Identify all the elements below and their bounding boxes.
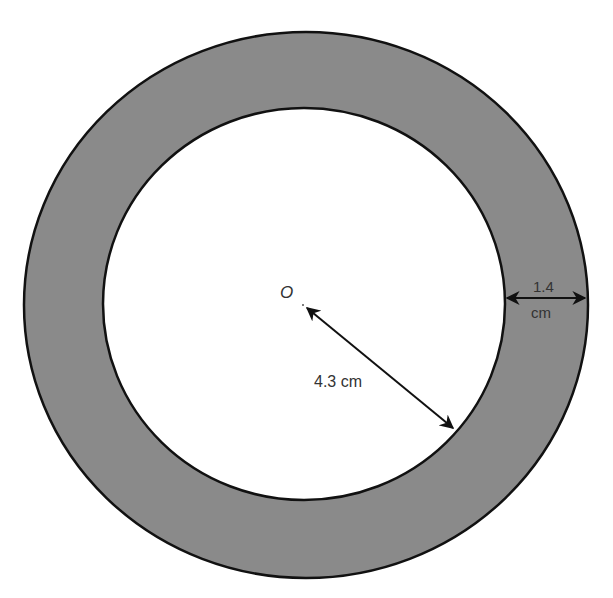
center-point xyxy=(302,304,304,306)
ring-width-label-top: 1.4 xyxy=(533,278,554,295)
ring-width-label-bottom: cm xyxy=(531,304,551,321)
inner-circle xyxy=(103,108,505,500)
annulus-diagram: O 4.3 cm 1.4 cm xyxy=(0,0,613,598)
inner-radius-label: 4.3 cm xyxy=(314,373,362,390)
center-label: O xyxy=(280,283,293,302)
